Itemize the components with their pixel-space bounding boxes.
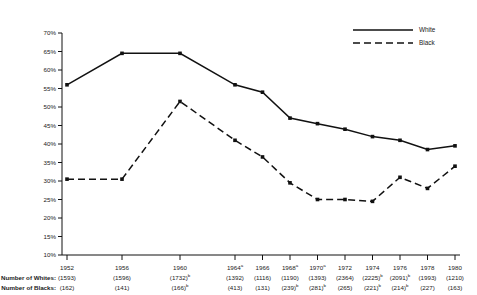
data-point: [120, 52, 124, 56]
counts-cell: (239)b: [282, 283, 299, 291]
chart-container: 70%65%60%55%50%45%40%35%30%25%20%15%10% …: [0, 0, 477, 295]
data-point: [316, 198, 320, 202]
counts-table: Number of Whites:(1593)(1596)(1732)b(139…: [1, 273, 464, 291]
x-axis: 1952195619601964a19661968a1970a197219741…: [60, 255, 462, 271]
data-point: [453, 144, 457, 148]
x-axis-tick-label: 1978: [421, 264, 435, 271]
y-axis-tick-label: 45%: [44, 122, 57, 129]
series-line-white: [67, 53, 455, 149]
data-point: [371, 135, 375, 139]
counts-cell: (1593): [58, 274, 76, 281]
counts-cell: (1732)b: [170, 273, 191, 281]
counts-cell: (162): [60, 284, 74, 291]
counts-row-label: Number of Whites:: [1, 274, 56, 281]
y-axis-tick-label: 25%: [44, 196, 57, 203]
counts-cell: (281)b: [309, 283, 326, 291]
counts-cell: (221)b: [364, 283, 381, 291]
y-axis-tick-label: 35%: [44, 159, 57, 166]
legend-label-black: Black: [419, 39, 435, 46]
y-axis-tick-label: 40%: [44, 140, 57, 147]
x-axis-tick-label: 1956: [115, 264, 129, 271]
y-axis-tick-label: 20%: [44, 214, 57, 221]
x-axis-tick-label: 1976: [393, 264, 407, 271]
data-point: [178, 100, 182, 104]
data-point: [426, 187, 430, 191]
y-axis-tick-label: 60%: [44, 66, 57, 73]
series-line-black: [67, 101, 455, 201]
counts-cell: (2364): [336, 274, 354, 281]
data-point: [316, 122, 320, 126]
counts-cell: (227): [420, 284, 434, 291]
counts-cell: (163): [448, 284, 462, 291]
counts-cell: (1392): [226, 274, 244, 281]
x-axis-tick-label: 1964a: [227, 263, 244, 271]
data-point: [261, 155, 265, 159]
data-point: [371, 200, 375, 204]
y-axis-tick-label: 10%: [44, 251, 57, 258]
data-point: [233, 139, 237, 143]
line-chart: 70%65%60%55%50%45%40%35%30%25%20%15%10% …: [0, 0, 477, 295]
counts-cell: (141): [115, 284, 129, 291]
counts-cell: (166)b: [172, 283, 189, 291]
data-point: [288, 116, 292, 120]
counts-cell: (1993): [419, 274, 437, 281]
x-axis-tick-label: 1970a: [309, 263, 326, 271]
counts-cell: (1190): [281, 274, 298, 281]
counts-cell: (1596): [113, 274, 131, 281]
y-axis-tick-label: 50%: [44, 103, 57, 110]
data-point: [65, 177, 69, 181]
counts-cell: (214)b: [392, 283, 409, 291]
x-axis-tick-label: 1952: [60, 264, 74, 271]
data-point: [398, 139, 402, 143]
counts-cell: (1210): [446, 274, 464, 281]
y-axis: 70%65%60%55%50%45%40%35%30%25%20%15%10%: [44, 29, 62, 258]
x-axis-tick-label: 1968a: [282, 263, 299, 271]
counts-cell: (1393): [309, 274, 327, 281]
data-point: [426, 148, 430, 152]
data-point: [261, 90, 265, 94]
data-point: [453, 164, 457, 168]
counts-cell: (265): [338, 284, 352, 291]
counts-cell: (2091)b: [390, 273, 411, 281]
y-axis-tick-label: 55%: [44, 85, 57, 92]
x-axis-tick-label: 1974: [366, 264, 380, 271]
data-point: [343, 127, 347, 131]
x-axis-tick-label: 1966: [256, 264, 270, 271]
counts-cell: (1116): [254, 274, 271, 281]
data-series-group: [65, 52, 457, 204]
data-point: [120, 177, 124, 181]
y-axis-tick-label: 30%: [44, 177, 57, 184]
data-point: [398, 176, 402, 180]
data-point: [288, 181, 292, 185]
legend-label-white: White: [419, 26, 436, 33]
y-axis-tick-label: 15%: [44, 233, 57, 240]
data-point: [233, 83, 237, 87]
data-point: [65, 83, 69, 87]
x-axis-tick-label: 1980: [448, 264, 462, 271]
counts-cell: (131): [255, 284, 269, 291]
x-axis-tick-label: 1972: [338, 264, 352, 271]
counts-row-label: Number of Blacks:: [1, 284, 56, 291]
y-axis-tick-label: 65%: [44, 48, 57, 55]
counts-cell: (413): [228, 284, 242, 291]
data-point: [343, 198, 347, 202]
counts-cell: (2225)b: [362, 273, 383, 281]
data-point: [178, 52, 182, 56]
chart-legend: WhiteBlack: [353, 26, 436, 46]
x-axis-tick-label: 1960: [173, 264, 187, 271]
y-axis-tick-label: 70%: [44, 29, 57, 36]
